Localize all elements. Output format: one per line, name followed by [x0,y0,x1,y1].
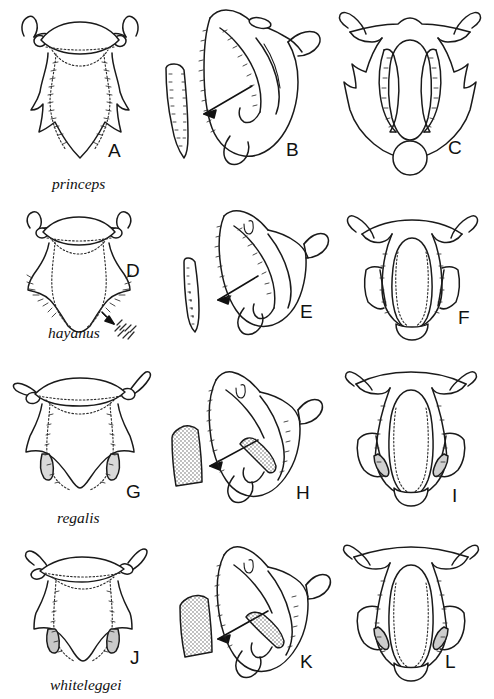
callout-arrow-B [204,86,252,118]
isolated-paramere-H [172,426,202,486]
panel-label-F: F [458,308,470,327]
panel-label-D: D [126,261,140,280]
panel-E-lateral [176,204,336,344]
panel-A-dorsal [10,6,150,181]
setae-callout-arrow-D [102,312,114,324]
panel-label-K: K [300,652,313,671]
panel-label-C: C [448,138,462,157]
paramere-in-situ-H [240,438,276,473]
panel-label-B: B [286,140,299,159]
panel-label-L: L [445,652,456,671]
species-name-hayanus: hayanus [48,325,100,341]
panel-label-G: G [126,482,141,501]
figure-row-regalis: G H I regalis [0,358,494,533]
illustration-plate: A B C princeps [0,0,494,699]
panel-label-J: J [130,648,140,667]
panel-label-A: A [108,141,121,160]
species-name-princeps: princeps [52,176,105,192]
panel-J-dorsal [18,543,148,678]
panel-label-E: E [300,302,313,321]
figure-row-princeps: A B C princeps [0,0,494,200]
isolated-paramere-K [180,595,212,657]
panel-H-lateral [162,362,337,512]
isolated-paramere-E [184,258,199,332]
panel-label-I: I [452,486,457,505]
panel-label-H: H [296,483,310,502]
figure-row-hayanus: D E F hayanus [0,198,494,356]
figure-row-whiteleggei: J K L whiteleggei [0,535,494,699]
isolated-paramere-B [166,64,188,158]
panel-L-ventral [336,541,486,686]
panel-I-ventral [336,364,486,514]
species-name-whiteleggei: whiteleggei [50,677,121,693]
setae-tuft-detail-D [115,320,136,339]
species-name-regalis: regalis [57,510,99,526]
panel-B-lateral [160,4,330,179]
panel-K-lateral [172,539,342,684]
panel-C-ventral [330,6,490,181]
panel-D-dorsal [14,208,144,343]
